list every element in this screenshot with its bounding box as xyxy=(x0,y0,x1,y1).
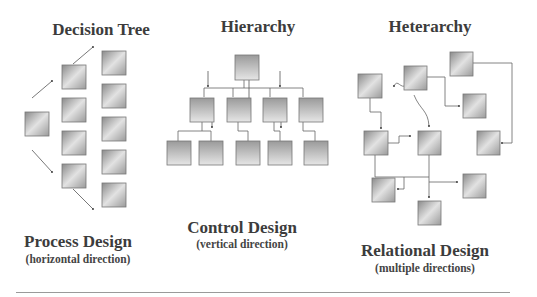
relational-design-label: Relational Design xyxy=(361,241,489,261)
heterarchy-diagram xyxy=(358,52,512,225)
control-design-label: Control Design xyxy=(187,218,297,238)
hierarchy-diagram xyxy=(167,55,328,165)
vertical-direction-label: (vertical direction) xyxy=(196,238,287,250)
horizontal-direction-label: (horizontal direction) xyxy=(26,253,131,265)
bottom-divider xyxy=(16,292,510,293)
process-design-label: Process Design xyxy=(24,232,132,252)
decision-tree-diagram xyxy=(25,47,126,209)
multiple-directions-label: (multiple directions) xyxy=(375,262,475,274)
